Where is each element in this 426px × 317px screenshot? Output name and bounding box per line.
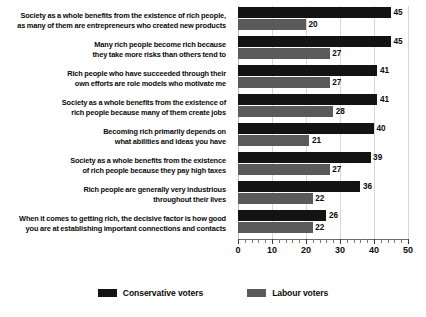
chart-row: Becoming rich primarily depends onwhat a…	[0, 122, 426, 151]
bar-labour[interactable]	[238, 48, 330, 59]
category-label-line: Becoming rich primarily depends on	[0, 127, 226, 136]
category-label-line: rich people because many of them create …	[0, 108, 226, 117]
chart-legend: Conservative votersLabour voters	[0, 288, 426, 298]
bar-line: 27	[238, 164, 426, 175]
grouped-bar-chart: Society as a whole benefits from the exi…	[0, 0, 426, 317]
row-bars: 4128	[232, 93, 426, 122]
x-tick-label: 20	[301, 245, 311, 255]
legend-label: Conservative voters	[123, 288, 203, 298]
bar-group: 4128	[238, 94, 426, 121]
bar-line: 41	[238, 65, 426, 76]
category-label: Society as a whole benefits from the exi…	[0, 156, 232, 174]
bar-conservative[interactable]	[238, 7, 391, 18]
row-bars: 4520	[232, 6, 426, 35]
bar-conservative[interactable]	[238, 123, 374, 134]
x-tick-minor	[292, 239, 293, 243]
chart-row: Rich people are generally very industrio…	[0, 180, 426, 209]
bar-value-label: 27	[330, 77, 342, 88]
x-tick-minor	[401, 239, 402, 243]
bar-value-label: 40	[374, 123, 386, 134]
x-tick-minor	[279, 239, 280, 243]
bar-line: 39	[238, 152, 426, 163]
bar-line: 40	[238, 123, 426, 134]
chart-row: Rich people who have succeeded through t…	[0, 64, 426, 93]
x-tick-minor	[299, 239, 300, 243]
plot-area: Society as a whole benefits from the exi…	[0, 0, 426, 246]
bar-labour[interactable]	[238, 106, 333, 117]
bar-conservative[interactable]	[238, 152, 371, 163]
x-tick-minor	[320, 239, 321, 243]
category-label: When it comes to getting rich, the decis…	[0, 214, 232, 232]
bar-labour[interactable]	[238, 222, 313, 233]
bar-group: 3927	[238, 152, 426, 179]
bar-group: 4527	[238, 36, 426, 63]
category-label-line: what abilities and ideas you have	[0, 137, 226, 146]
legend-item[interactable]: Conservative voters	[98, 288, 203, 298]
bar-labour[interactable]	[238, 164, 330, 175]
bar-line: 22	[238, 222, 426, 233]
x-tick-major	[340, 239, 341, 244]
bar-group: 2622	[238, 210, 426, 237]
row-bars: 3927	[232, 151, 426, 180]
chart-row: Society as a whole benefits from the exi…	[0, 151, 426, 180]
row-bars: 2622	[232, 209, 426, 238]
row-bars: 4127	[232, 64, 426, 93]
x-tick-minor	[360, 239, 361, 243]
x-tick-minor	[258, 239, 259, 243]
category-label-line: as many of them are entrepreneurs who cr…	[0, 21, 226, 30]
x-tick-minor	[367, 239, 368, 243]
row-bars: 4527	[232, 35, 426, 64]
bar-value-label: 36	[360, 181, 372, 192]
bar-conservative[interactable]	[238, 36, 391, 47]
bar-labour[interactable]	[238, 135, 309, 146]
bar-value-label: 27	[330, 164, 342, 175]
category-label-line: throughout their lives	[0, 195, 226, 204]
bar-value-label: 20	[306, 19, 318, 30]
bar-conservative[interactable]	[238, 94, 377, 105]
row-bars: 4021	[232, 122, 426, 151]
category-label: Society as a whole benefits from the exi…	[0, 11, 232, 29]
x-tick-label: 40	[369, 245, 379, 255]
bar-rows: Society as a whole benefits from the exi…	[0, 6, 426, 238]
category-label-line: they take more risks than others tend to	[0, 50, 226, 59]
row-bars: 3622	[232, 180, 426, 209]
chart-row: Society as a whole benefits from the exi…	[0, 93, 426, 122]
bar-value-label: 28	[333, 106, 345, 117]
x-tick-minor	[347, 239, 348, 243]
category-label-line: Society as a whole benefits from the exi…	[0, 156, 226, 165]
bar-line: 41	[238, 94, 426, 105]
x-tick-label: 0	[235, 245, 240, 255]
x-tick-major	[238, 239, 239, 244]
bar-labour[interactable]	[238, 19, 306, 30]
bar-value-label: 21	[309, 135, 321, 146]
category-label-line: Rich people are generally very industrio…	[0, 185, 226, 194]
bar-value-label: 45	[391, 36, 403, 47]
bar-value-label: 22	[313, 193, 325, 204]
x-tick-minor	[394, 239, 395, 243]
bar-line: 20	[238, 19, 426, 30]
bar-line: 27	[238, 77, 426, 88]
bar-conservative[interactable]	[238, 65, 377, 76]
x-tick-label: 10	[267, 245, 277, 255]
bar-value-label: 26	[326, 210, 338, 221]
x-axis-line	[238, 239, 408, 240]
x-tick-label: 50	[403, 245, 413, 255]
bar-conservative[interactable]	[238, 210, 326, 221]
bar-labour[interactable]	[238, 77, 330, 88]
chart-row: When it comes to getting rich, the decis…	[0, 209, 426, 238]
category-label-line: When it comes to getting rich, the decis…	[0, 214, 226, 223]
x-tick-major	[272, 239, 273, 244]
x-tick-minor	[388, 239, 389, 243]
x-tick-minor	[245, 239, 246, 243]
x-tick-major	[306, 239, 307, 244]
category-label-line: Many rich people become rich because	[0, 40, 226, 49]
bar-labour[interactable]	[238, 193, 313, 204]
chart-row: Many rich people become rich becausethey…	[0, 35, 426, 64]
bar-value-label: 27	[330, 48, 342, 59]
bar-line: 22	[238, 193, 426, 204]
legend-item[interactable]: Labour voters	[247, 288, 328, 298]
x-tick-minor	[313, 239, 314, 243]
legend-label: Labour voters	[272, 288, 328, 298]
bar-conservative[interactable]	[238, 181, 360, 192]
x-tick-minor	[381, 239, 382, 243]
